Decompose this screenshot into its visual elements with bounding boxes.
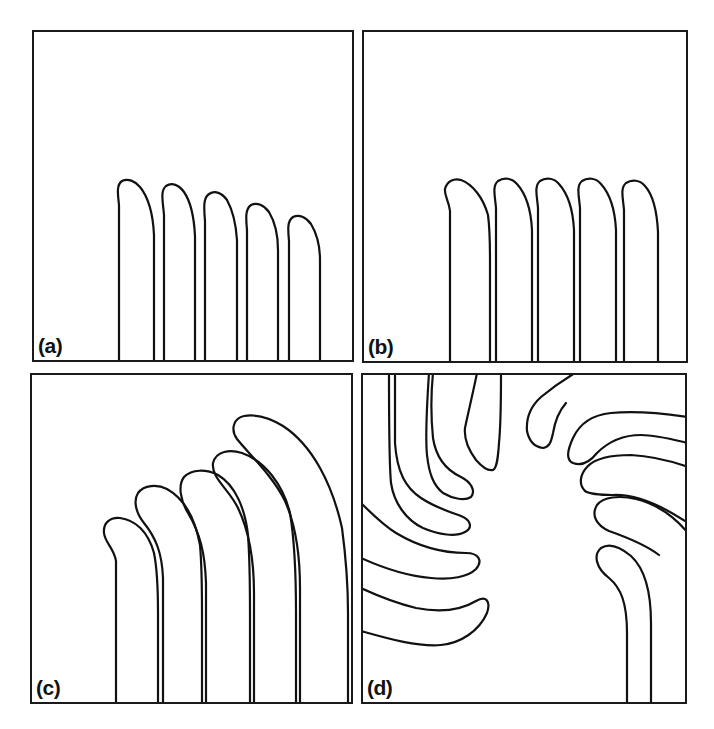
finger-contour bbox=[568, 412, 687, 464]
panel-label: (c) bbox=[36, 677, 60, 698]
finger-contour bbox=[246, 204, 278, 361]
panel-label: (d) bbox=[367, 677, 392, 698]
finger-group bbox=[118, 180, 320, 361]
panel-b: (b) bbox=[362, 30, 688, 363]
finger-contour bbox=[581, 455, 687, 523]
finger-group bbox=[361, 373, 687, 703]
finger-contour bbox=[104, 518, 158, 703]
finger-contour bbox=[578, 179, 616, 362]
finger-contour bbox=[213, 451, 296, 703]
panel-b-plot bbox=[362, 30, 688, 363]
finger-contour bbox=[389, 373, 470, 535]
panel-d-plot bbox=[361, 373, 687, 704]
finger-contour bbox=[527, 373, 575, 448]
finger-contour bbox=[162, 184, 195, 361]
finger-contour bbox=[622, 181, 658, 362]
finger-contour bbox=[597, 546, 651, 703]
figure: (a) (b) (c) (d) bbox=[0, 0, 714, 729]
finger-contour bbox=[536, 179, 574, 362]
finger-group bbox=[445, 179, 658, 362]
panel-c-plot bbox=[30, 373, 353, 704]
panel-label: (b) bbox=[368, 336, 393, 357]
finger-contour bbox=[361, 503, 479, 579]
panel-a: (a) bbox=[32, 30, 354, 362]
finger-contour bbox=[181, 471, 250, 703]
panel-d: (d) bbox=[361, 373, 687, 704]
panel-a-plot bbox=[32, 30, 354, 362]
finger-contour bbox=[288, 216, 320, 361]
finger-group bbox=[104, 415, 348, 703]
finger-contour bbox=[465, 373, 501, 470]
finger-contour bbox=[361, 588, 488, 645]
finger-contour bbox=[494, 179, 532, 362]
panel-label: (a) bbox=[38, 335, 62, 356]
finger-contour bbox=[118, 180, 154, 361]
panel-c: (c) bbox=[30, 373, 353, 704]
finger-contour bbox=[204, 192, 237, 361]
finger-contour bbox=[445, 179, 490, 362]
